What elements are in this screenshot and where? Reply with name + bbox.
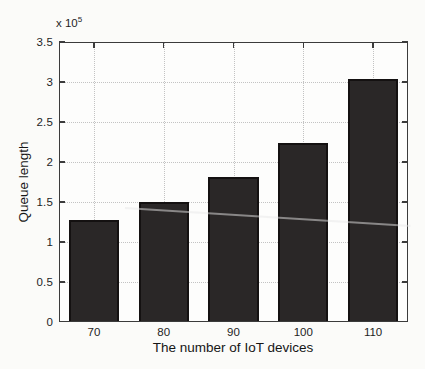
y-tick-right — [402, 121, 408, 122]
y-tick-left — [59, 201, 65, 202]
plot-area — [59, 42, 408, 322]
y-tick-label: 3 — [46, 76, 53, 88]
x-tick-label: 80 — [157, 326, 170, 338]
y-tick-label: 1.5 — [36, 196, 53, 208]
bar-chart-figure: x 105 Queue length The number of IoT dev… — [0, 0, 425, 369]
y-tick-label: 3.5 — [36, 36, 53, 48]
y-tick-right — [402, 81, 408, 82]
y-tick-label: 0.5 — [36, 276, 53, 288]
y-tick-left — [59, 281, 65, 282]
x-tick-top — [303, 42, 304, 48]
y-tick-label: 2 — [46, 156, 53, 168]
y-tick-right — [402, 201, 408, 202]
y-axis-multiplier: x 105 — [56, 17, 82, 29]
bar-70 — [69, 220, 119, 322]
x-tick-top — [233, 42, 234, 48]
y-tick-label: 2.5 — [36, 116, 53, 128]
bar-90 — [208, 177, 258, 322]
y-tick-left — [59, 161, 65, 162]
y-tick-right — [402, 41, 408, 42]
y-tick-right — [402, 241, 408, 242]
x-tick-label: 70 — [87, 326, 100, 338]
x-tick-label: 90 — [227, 326, 240, 338]
y-tick-right — [402, 161, 408, 162]
y-axis-label: Queue length — [16, 141, 31, 222]
y-tick-right — [402, 281, 408, 282]
y-tick-left — [59, 41, 65, 42]
y-tick-label: 0 — [46, 316, 53, 328]
y-axis-multiplier-exponent: 5 — [78, 15, 82, 24]
bar-100 — [278, 143, 328, 322]
x-tick-top — [93, 42, 94, 48]
x-tick-top — [163, 42, 164, 48]
y-tick-label: 1 — [46, 236, 53, 248]
y-axis-multiplier-base: x 10 — [56, 17, 78, 29]
x-tick-label: 100 — [294, 326, 313, 338]
y-tick-left — [59, 241, 65, 242]
bar-80 — [139, 202, 189, 322]
bar-110 — [348, 79, 398, 322]
x-tick-top — [372, 42, 373, 48]
x-axis-label: The number of IoT devices — [153, 340, 313, 355]
y-tick-left — [59, 121, 65, 122]
y-tick-left — [59, 81, 65, 82]
x-tick-label: 110 — [364, 326, 382, 338]
